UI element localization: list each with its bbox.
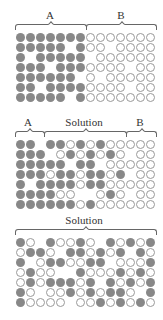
open-circle-icon — [116, 140, 125, 149]
lattice-grid — [15, 32, 155, 102]
open-circle-icon — [146, 43, 155, 52]
empty-cell — [66, 268, 75, 277]
filled-circle-icon — [26, 278, 35, 287]
empty-cell — [46, 63, 55, 72]
open-circle-icon — [106, 83, 115, 92]
open-circle-icon — [146, 93, 155, 102]
brace-icon — [44, 131, 127, 137]
filled-circle-icon — [146, 238, 155, 247]
filled-circle-icon — [46, 238, 55, 247]
filled-circle-icon — [16, 288, 25, 297]
open-circle-icon — [146, 248, 155, 257]
filled-circle-icon — [36, 43, 45, 52]
open-circle-icon — [126, 53, 135, 62]
filled-circle-icon — [76, 268, 85, 277]
open-circle-icon — [56, 190, 65, 199]
filled-circle-icon — [66, 83, 75, 92]
filled-circle-icon — [56, 63, 65, 72]
open-circle-icon — [126, 33, 135, 42]
filled-circle-icon — [56, 93, 65, 102]
open-circle-icon — [116, 238, 125, 247]
filled-circle-icon — [56, 53, 65, 62]
filled-circle-icon — [26, 93, 35, 102]
open-circle-icon — [146, 63, 155, 72]
open-circle-icon — [76, 278, 85, 287]
filled-circle-icon — [16, 140, 25, 149]
region-label: Solution — [65, 215, 102, 226]
open-circle-icon — [26, 238, 35, 247]
open-circle-icon — [136, 83, 145, 92]
open-circle-icon — [56, 298, 65, 307]
filled-circle-icon — [76, 63, 85, 72]
empty-cell — [106, 43, 115, 52]
filled-circle-icon — [16, 73, 25, 82]
filled-circle-icon — [56, 73, 65, 82]
filled-circle-icon — [16, 150, 25, 159]
open-circle-icon — [66, 238, 75, 247]
open-circle-icon — [46, 248, 55, 257]
filled-circle-icon — [26, 200, 35, 209]
open-circle-icon — [86, 298, 95, 307]
filled-circle-icon — [46, 73, 55, 82]
filled-circle-icon — [46, 33, 55, 42]
open-circle-icon — [136, 258, 145, 267]
open-circle-icon — [86, 248, 95, 257]
open-circle-icon — [106, 63, 115, 72]
open-circle-icon — [146, 160, 155, 169]
empty-cell — [126, 150, 135, 159]
open-circle-icon — [136, 93, 145, 102]
filled-circle-icon — [96, 140, 105, 149]
filled-circle-icon — [36, 73, 45, 82]
open-circle-icon — [76, 200, 85, 209]
filled-circle-icon — [26, 140, 35, 149]
filled-circle-icon — [76, 140, 85, 149]
region-label: B — [136, 117, 143, 128]
filled-circle-icon — [16, 83, 25, 92]
open-circle-icon — [56, 150, 65, 159]
filled-circle-icon — [46, 83, 55, 92]
filled-circle-icon — [146, 288, 155, 297]
open-circle-icon — [116, 278, 125, 287]
empty-cell — [76, 73, 85, 82]
open-circle-icon — [126, 180, 135, 189]
filled-circle-icon — [16, 63, 25, 72]
open-circle-icon — [116, 200, 125, 209]
filled-circle-icon — [16, 180, 25, 189]
empty-cell — [66, 160, 75, 169]
empty-cell — [86, 190, 95, 199]
open-circle-icon — [146, 180, 155, 189]
filled-circle-icon — [106, 278, 115, 287]
filled-circle-icon — [46, 278, 55, 287]
filled-circle-icon — [56, 258, 65, 267]
empty-cell — [126, 190, 135, 199]
filled-circle-icon — [26, 33, 35, 42]
open-circle-icon — [96, 33, 105, 42]
open-circle-icon — [86, 43, 95, 52]
filled-circle-icon — [86, 258, 95, 267]
open-circle-icon — [96, 53, 105, 62]
open-circle-icon — [126, 268, 135, 277]
open-circle-icon — [116, 43, 125, 52]
open-circle-icon — [146, 83, 155, 92]
open-circle-icon — [56, 288, 65, 297]
filled-circle-icon — [16, 160, 25, 169]
open-circle-icon — [106, 248, 115, 257]
open-circle-icon — [36, 268, 45, 277]
filled-circle-icon — [26, 43, 35, 52]
filled-circle-icon — [76, 53, 85, 62]
empty-cell — [96, 278, 105, 287]
open-circle-icon — [66, 258, 75, 267]
empty-cell — [46, 150, 55, 159]
empty-cell — [106, 258, 115, 267]
filled-circle-icon — [36, 160, 45, 169]
open-circle-icon — [146, 140, 155, 149]
filled-circle-icon — [46, 190, 55, 199]
filled-circle-icon — [66, 180, 75, 189]
open-circle-icon — [136, 160, 145, 169]
filled-circle-icon — [26, 63, 35, 72]
filled-circle-icon — [86, 180, 95, 189]
filled-circle-icon — [136, 298, 145, 307]
filled-circle-icon — [86, 200, 95, 209]
filled-circle-icon — [36, 53, 45, 62]
open-circle-icon — [116, 180, 125, 189]
